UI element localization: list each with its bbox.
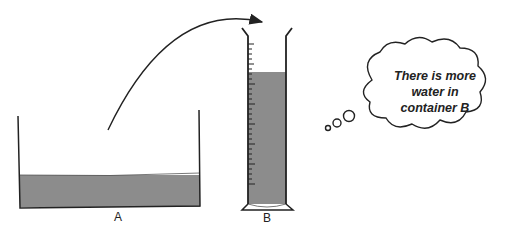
container-a	[18, 110, 200, 208]
transfer-arrow	[108, 19, 262, 130]
thought-bubble-text: There is more water in container B	[380, 68, 490, 116]
container-a-water	[20, 175, 200, 207]
thought-circle-large	[344, 111, 355, 122]
container-a-label: A	[114, 210, 122, 224]
container-b-label: B	[263, 211, 271, 225]
thought-circle-medium	[333, 119, 341, 127]
container-b	[242, 28, 293, 210]
thought-line-1: There is more	[380, 68, 490, 84]
thought-line-3: container B	[380, 100, 490, 116]
thought-line-2: water in	[380, 84, 490, 100]
thought-circle-small	[326, 126, 331, 131]
